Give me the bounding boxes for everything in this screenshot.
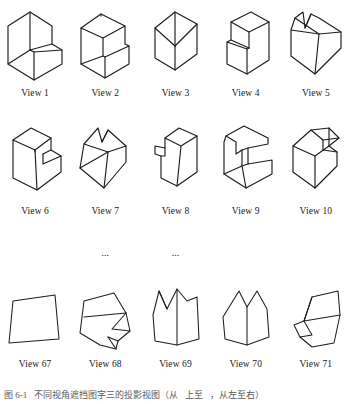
shape-l-block-front-left (0, 4, 70, 82)
isometric-wireframe (216, 122, 276, 196)
view-cell: View 71 (281, 283, 351, 369)
shape-twin-peak-a (140, 283, 210, 353)
shape-slab-with-notch (0, 118, 70, 196)
ellipsis-dots-1: ... (70, 247, 140, 259)
isometric-wireframe (217, 6, 275, 82)
view-cell: View 67 (0, 283, 70, 369)
shape-twin-peak-b (211, 283, 281, 353)
view-label: View 4 (232, 88, 260, 98)
shape-flat-quad (0, 283, 70, 353)
view-cell: View 9 (211, 118, 281, 216)
projection-outline (5, 287, 65, 353)
ellipsis-spacer (281, 247, 351, 259)
projection-outline (147, 287, 205, 353)
view-cell: View 8 (140, 118, 210, 216)
shape-tilted-block-notch (70, 118, 140, 196)
view-label: View 3 (162, 88, 190, 98)
shape-folded-poly-b (281, 283, 351, 353)
view-cell: View 69 (140, 283, 210, 369)
shape-corner-block-tall (140, 4, 210, 82)
caption-number: 图 6-1 (4, 390, 27, 400)
isometric-wireframe (75, 6, 135, 82)
view-cell: View 70 (211, 283, 281, 369)
projection-outline (286, 287, 346, 353)
view-label: View 7 (91, 206, 119, 216)
view-label: View 68 (89, 359, 122, 369)
view-label: View 67 (19, 359, 52, 369)
view-label: View 6 (21, 206, 49, 216)
ellipsis-dots-2: ... (140, 247, 210, 259)
figure-container: View 1 View 2 (0, 0, 351, 404)
view-label: View 8 (162, 206, 190, 216)
isometric-wireframe (147, 6, 205, 82)
view-label: View 2 (91, 88, 119, 98)
figure-caption: 图 6-1不同视角遮挡图字三的投影视图（从上至，从左至右） (0, 390, 351, 401)
projection-outline (217, 287, 275, 353)
shape-open-corner-block (211, 118, 281, 196)
shape-notched-cube-top (281, 4, 351, 82)
view-cell: View 7 (70, 118, 140, 216)
view-row-3: View 67 View 68 (0, 283, 351, 369)
caption-text-2: 上至 (185, 390, 203, 400)
ellipsis-spacer (0, 247, 70, 259)
view-cell: View 5 (281, 4, 351, 98)
shape-folded-poly-a (70, 283, 140, 353)
shape-z-notch-block (281, 118, 351, 196)
shape-step-block-right (211, 4, 281, 82)
ellipsis-spacer (211, 247, 281, 259)
isometric-wireframe (4, 6, 66, 82)
caption-text-1: 不同视角遮挡图字三的投影视图（从 (34, 390, 178, 400)
ellipsis-row: ... ... (0, 247, 351, 259)
view-label: View 70 (229, 359, 262, 369)
view-label: View 9 (232, 206, 260, 216)
view-label: View 71 (300, 359, 333, 369)
view-row-2: View 6 View 7 (0, 118, 351, 216)
caption-text-3: ，从左至右） (210, 390, 264, 400)
shape-step-block-left (70, 4, 140, 82)
isometric-wireframe (74, 122, 136, 196)
view-cell: View 2 (70, 4, 140, 98)
view-cell: View 6 (0, 118, 70, 216)
view-cell: View 3 (140, 4, 210, 98)
isometric-wireframe (5, 122, 65, 196)
view-row-1: View 1 View 2 (0, 4, 351, 98)
view-label: View 1 (21, 88, 49, 98)
view-cell: View 68 (70, 283, 140, 369)
view-label: View 5 (302, 88, 330, 98)
isometric-wireframe (285, 6, 347, 82)
view-label: View 69 (159, 359, 192, 369)
view-label: View 10 (300, 206, 333, 216)
isometric-wireframe (285, 122, 347, 196)
isometric-wireframe (147, 122, 205, 196)
view-cell: View 4 (211, 4, 281, 98)
view-cell: View 10 (281, 118, 351, 216)
projection-outline (74, 287, 136, 353)
view-cell: View 1 (0, 4, 70, 98)
shape-tall-block-step (140, 118, 210, 196)
